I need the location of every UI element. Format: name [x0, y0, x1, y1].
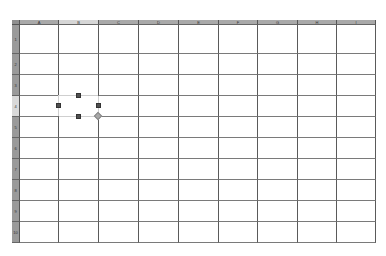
cell-g10[interactable]	[258, 222, 298, 243]
cell-h6[interactable]	[298, 138, 337, 159]
cell-c4[interactable]	[99, 96, 139, 117]
cell-f4[interactable]	[219, 96, 258, 117]
cell-c8[interactable]	[99, 180, 139, 201]
cell-f6[interactable]	[219, 138, 258, 159]
row-header-10[interactable]: 10	[12, 222, 20, 243]
cell-i6[interactable]	[337, 138, 376, 159]
cell-d6[interactable]	[139, 138, 179, 159]
cell-d7[interactable]	[139, 159, 179, 180]
cell-d9[interactable]	[139, 201, 179, 222]
cell-b6[interactable]	[59, 138, 99, 159]
cell-h10[interactable]	[298, 222, 337, 243]
row-header-7[interactable]: 7	[12, 159, 20, 180]
cell-e5[interactable]	[179, 117, 219, 138]
cell-e10[interactable]	[179, 222, 219, 243]
cell-d3[interactable]	[139, 75, 179, 96]
cell-d5[interactable]	[139, 117, 179, 138]
cell-a5[interactable]	[20, 117, 59, 138]
row-header-1[interactable]: 1	[12, 25, 20, 54]
cell-a8[interactable]	[20, 180, 59, 201]
cell-b10[interactable]	[59, 222, 99, 243]
cell-h1[interactable]	[298, 25, 337, 54]
cell-c1[interactable]	[99, 25, 139, 54]
row-header-6[interactable]: 6	[12, 138, 20, 159]
cell-h3[interactable]	[298, 75, 337, 96]
cell-h7[interactable]	[298, 159, 337, 180]
cell-i10[interactable]	[337, 222, 376, 243]
cell-b7[interactable]	[59, 159, 99, 180]
cell-b9[interactable]	[59, 201, 99, 222]
cell-a10[interactable]	[20, 222, 59, 243]
selection-handle-left[interactable]	[56, 103, 61, 108]
cell-e7[interactable]	[179, 159, 219, 180]
cell-g1[interactable]	[258, 25, 298, 54]
cell-f10[interactable]	[219, 222, 258, 243]
cell-a6[interactable]	[20, 138, 59, 159]
cell-g7[interactable]	[258, 159, 298, 180]
cell-b5[interactable]	[59, 117, 99, 138]
cell-a4[interactable]	[20, 96, 59, 117]
selection-handle-right[interactable]	[96, 103, 101, 108]
cell-g3[interactable]	[258, 75, 298, 96]
cell-c3[interactable]	[99, 75, 139, 96]
cell-e9[interactable]	[179, 201, 219, 222]
selection-handle-top[interactable]	[76, 93, 81, 98]
cell-i5[interactable]	[337, 117, 376, 138]
row-header-5[interactable]: 5	[12, 117, 20, 138]
cell-g9[interactable]	[258, 201, 298, 222]
cell-c9[interactable]	[99, 201, 139, 222]
cell-b8[interactable]	[59, 180, 99, 201]
cell-c5[interactable]	[99, 117, 139, 138]
cell-b1[interactable]	[59, 25, 99, 54]
cell-h5[interactable]	[298, 117, 337, 138]
row-header-2[interactable]: 2	[12, 54, 20, 75]
cell-a7[interactable]	[20, 159, 59, 180]
cell-e3[interactable]	[179, 75, 219, 96]
cell-g8[interactable]	[258, 180, 298, 201]
cell-f7[interactable]	[219, 159, 258, 180]
cell-h2[interactable]	[298, 54, 337, 75]
cell-h9[interactable]	[298, 201, 337, 222]
cell-f2[interactable]	[219, 54, 258, 75]
cell-d2[interactable]	[139, 54, 179, 75]
cell-i2[interactable]	[337, 54, 376, 75]
cell-a9[interactable]	[20, 201, 59, 222]
cell-g4[interactable]	[258, 96, 298, 117]
cell-i3[interactable]	[337, 75, 376, 96]
cell-i7[interactable]	[337, 159, 376, 180]
cell-a2[interactable]	[20, 54, 59, 75]
cell-e6[interactable]	[179, 138, 219, 159]
row-header-8[interactable]: 8	[12, 180, 20, 201]
cell-g5[interactable]	[258, 117, 298, 138]
cell-e2[interactable]	[179, 54, 219, 75]
row-header-3[interactable]: 3	[12, 75, 20, 96]
row-header-4[interactable]: 4	[12, 96, 20, 117]
cell-i8[interactable]	[337, 180, 376, 201]
cell-e1[interactable]	[179, 25, 219, 54]
cell-c2[interactable]	[99, 54, 139, 75]
cell-c10[interactable]	[99, 222, 139, 243]
cell-d10[interactable]	[139, 222, 179, 243]
cell-d1[interactable]	[139, 25, 179, 54]
cell-d8[interactable]	[139, 180, 179, 201]
cell-i9[interactable]	[337, 201, 376, 222]
cell-h8[interactable]	[298, 180, 337, 201]
cell-f9[interactable]	[219, 201, 258, 222]
selection-handle-bottom[interactable]	[76, 114, 81, 119]
cell-g6[interactable]	[258, 138, 298, 159]
cell-c7[interactable]	[99, 159, 139, 180]
cell-e8[interactable]	[179, 180, 219, 201]
cell-c6[interactable]	[99, 138, 139, 159]
cell-f8[interactable]	[219, 180, 258, 201]
row-header-9[interactable]: 9	[12, 201, 20, 222]
cell-i4[interactable]	[337, 96, 376, 117]
cell-h4[interactable]	[298, 96, 337, 117]
cell-g2[interactable]	[258, 54, 298, 75]
cell-e4[interactable]	[179, 96, 219, 117]
cell-d4[interactable]	[139, 96, 179, 117]
cell-i1[interactable]	[337, 25, 376, 54]
cell-f3[interactable]	[219, 75, 258, 96]
cell-b2[interactable]	[59, 54, 99, 75]
cell-f5[interactable]	[219, 117, 258, 138]
spreadsheet-grid[interactable]: ABCDEFGHI12345678910	[12, 20, 376, 244]
